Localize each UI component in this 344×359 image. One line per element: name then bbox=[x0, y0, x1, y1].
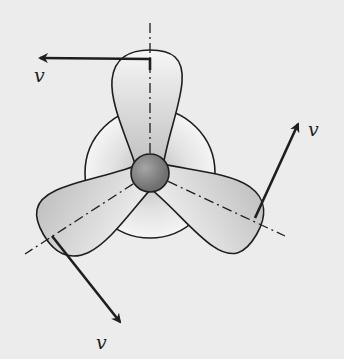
propeller-diagram: v v v bbox=[0, 0, 344, 359]
propeller-figure bbox=[0, 0, 344, 359]
velocity-label-right: v bbox=[308, 120, 319, 139]
arrow-right-velocity bbox=[255, 124, 298, 218]
velocity-label-bottom: v bbox=[96, 333, 107, 352]
velocity-label-top: v bbox=[34, 66, 45, 85]
hub bbox=[131, 154, 169, 192]
